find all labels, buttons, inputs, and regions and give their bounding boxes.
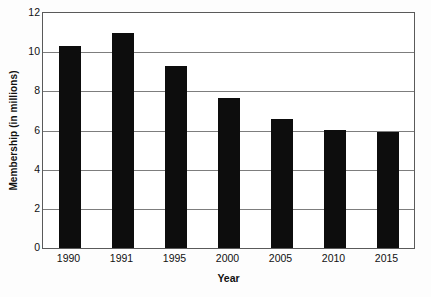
x-tick-label: 2015 (375, 253, 398, 264)
y-tick-label: 0 (14, 242, 40, 253)
bar (324, 130, 346, 248)
x-tick-label: 2000 (216, 253, 239, 264)
x-tick-label: 1990 (57, 253, 80, 264)
x-tick-label: 2010 (322, 253, 345, 264)
y-axis-tick-labels: 12 10 8 6 4 2 0 (14, 0, 40, 297)
x-tick-label: 1991 (110, 253, 133, 264)
x-axis-title: Year (42, 272, 415, 284)
y-tick-label: 2 (14, 203, 40, 214)
x-tick-label: 1995 (163, 253, 186, 264)
y-tick-label: 10 (14, 46, 40, 57)
y-tick-label: 6 (14, 124, 40, 135)
y-tick-label: 8 (14, 85, 40, 96)
y-tick-label: 12 (14, 7, 40, 18)
bar (377, 132, 399, 248)
bar (59, 46, 81, 248)
bar (218, 98, 240, 248)
bar (271, 119, 293, 248)
bar (112, 33, 134, 248)
plot-area (42, 12, 415, 249)
y-tick-label: 4 (14, 163, 40, 174)
bars-group (43, 13, 414, 248)
bar-chart: Membership (in millions) 12 10 8 6 4 2 0… (0, 0, 431, 297)
x-tick-label: 2005 (269, 253, 292, 264)
x-axis-tick-labels: 1990199119952000200520102015 (42, 253, 415, 271)
bar (165, 66, 187, 248)
